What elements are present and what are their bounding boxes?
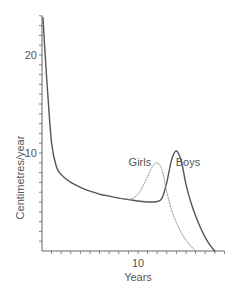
y-tick-label: 10 xyxy=(25,147,37,159)
x-tick-label: 10 xyxy=(132,257,144,269)
annotation-girls: Girls xyxy=(129,156,152,168)
series-lines xyxy=(43,18,215,251)
annotation-boys: Boys xyxy=(176,156,201,168)
growth-velocity-chart: 102010YearsCentimetres/year GirlsBoys xyxy=(0,0,238,291)
x-axis-title: Years xyxy=(124,271,152,283)
y-tick-label: 20 xyxy=(25,49,37,61)
series-boys-line xyxy=(43,18,215,251)
labels: GirlsBoys xyxy=(129,156,201,168)
y-axis-title: Centimetres/year xyxy=(14,135,26,219)
